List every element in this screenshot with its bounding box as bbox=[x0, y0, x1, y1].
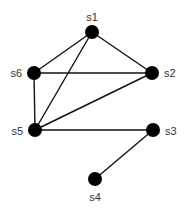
node-s4 bbox=[88, 172, 102, 186]
edge-s1-s5 bbox=[35, 32, 92, 130]
edges-layer bbox=[34, 32, 153, 179]
node-label-s6: s6 bbox=[10, 67, 22, 79]
edge-s6-s5 bbox=[34, 73, 35, 130]
node-s6 bbox=[27, 66, 41, 80]
edge-s3-s4 bbox=[95, 130, 153, 179]
node-label-s5: s5 bbox=[11, 125, 23, 137]
node-label-s4: s4 bbox=[89, 191, 101, 203]
node-label-s3: s3 bbox=[165, 125, 177, 137]
node-s3 bbox=[146, 123, 160, 137]
nodes-layer bbox=[27, 25, 160, 186]
graph-diagram: s1s2s3s4s5s6 bbox=[0, 0, 184, 214]
node-label-s1: s1 bbox=[86, 11, 98, 23]
edge-s2-s5 bbox=[35, 73, 152, 130]
node-s5 bbox=[28, 123, 42, 137]
node-s2 bbox=[145, 66, 159, 80]
node-label-s2: s2 bbox=[164, 67, 176, 79]
edge-s1-s2 bbox=[92, 32, 152, 73]
node-s1 bbox=[85, 25, 99, 39]
edge-s1-s6 bbox=[34, 32, 92, 73]
